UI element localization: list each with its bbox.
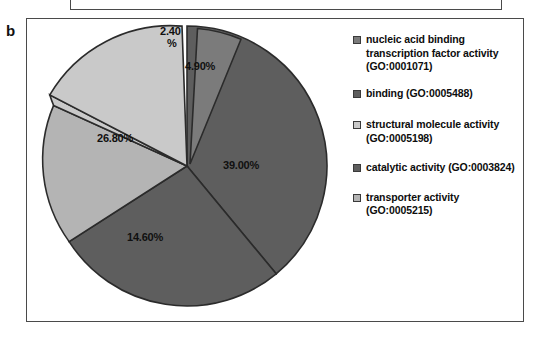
legend-label: catalytic activity (GO:0003824) [366,161,515,175]
pie-label-transporter: 14.60% [127,231,163,243]
pie-label-nucleic-acid-binding: 4.90% [185,60,215,72]
legend-item[interactable]: structural molecule activity (GO:0005198… [353,118,525,145]
legend-label: transporter activity (GO:0005215) [366,191,525,218]
pie-label-binding: 39.00% [223,159,259,171]
chart-panel-border: 39.00% 4.90% 2.40 % 26.80% 14.60% nuclei… [26,18,524,322]
legend-swatch-nucleic-acid-binding-icon [353,36,361,44]
legend-item[interactable]: nucleic acid binding transcription facto… [353,33,525,74]
pie-label-structural-percent-sign: % [167,37,177,49]
legend-swatch-binding-icon [353,90,361,98]
figure-panel-b: b 39.00% 4.90% 2.40 % 26. [0,0,541,340]
legend-label: nucleic acid binding transcription facto… [366,33,525,74]
chart-legend: nucleic acid binding transcription facto… [353,33,525,231]
legend-item[interactable]: catalytic activity (GO:0003824) [353,161,525,175]
pie-chart: 39.00% 4.90% 2.40 % 26.80% 14.60% [27,19,357,323]
panel-letter: b [6,22,15,39]
legend-swatch-structural-molecule-icon [353,121,361,129]
pie-label-structural-value: 2.40 [160,25,181,37]
legend-item[interactable]: transporter activity (GO:0005215) [353,191,525,218]
legend-swatch-transporter-icon [353,194,361,202]
legend-label: structural molecule activity (GO:0005198… [366,118,525,145]
pie-label-catalytic: 26.80% [97,132,133,144]
adjacent-panel-bottom-edge [70,0,502,10]
legend-label: binding (GO:0005488) [366,87,473,101]
legend-swatch-catalytic-icon [353,164,361,172]
legend-item[interactable]: binding (GO:0005488) [353,87,525,101]
